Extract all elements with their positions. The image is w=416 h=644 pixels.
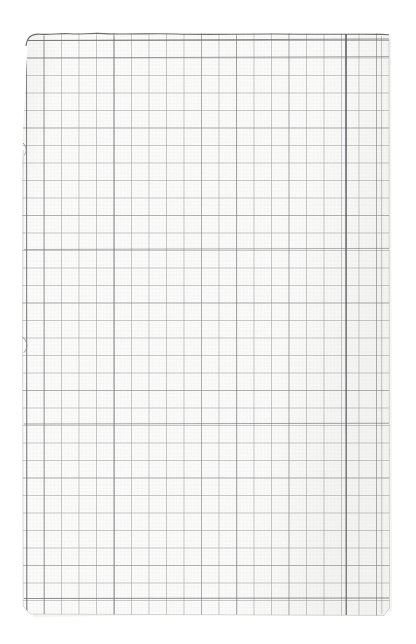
scanned-grid-paper-image xyxy=(0,0,416,644)
paper-sheet xyxy=(18,28,396,622)
paper-lighting xyxy=(18,28,396,622)
scan-canvas: Scan of a blank sheet of square grid pap… xyxy=(0,0,416,644)
